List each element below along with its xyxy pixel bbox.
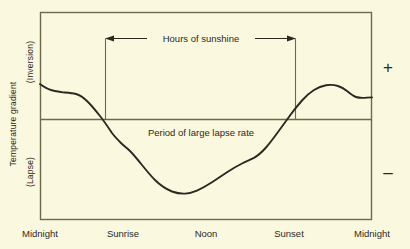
- sunshine-span-arrowhead-right: [287, 36, 296, 42]
- positive-sign-label: +: [383, 58, 393, 77]
- x-tick-label-midnight-start: Midnight: [22, 228, 58, 239]
- negative-sign-label: –: [383, 163, 393, 182]
- diurnal-temperature-gradient-chart: Hours of sunshine Period of large lapse …: [0, 0, 410, 249]
- x-tick-label-midnight-end: Midnight: [354, 228, 390, 239]
- figure-container: Hours of sunshine Period of large lapse …: [0, 0, 410, 249]
- temperature-gradient-curve: [40, 84, 372, 194]
- x-tick-label-sunset: Sunset: [274, 228, 304, 239]
- y-axis-lapse-label: (Lapse): [25, 157, 35, 187]
- lapse-period-label: Period of large lapse rate: [148, 127, 254, 138]
- y-axis-inversion-label: (Inversion): [25, 41, 35, 83]
- x-tick-label-sunrise: Sunrise: [107, 228, 139, 239]
- x-tick-label-noon: Noon: [195, 228, 218, 239]
- sunshine-span-arrowhead-left: [105, 36, 114, 42]
- sunshine-span-label: Hours of sunshine: [163, 33, 240, 44]
- y-axis-title: Temperature gradient: [8, 81, 18, 166]
